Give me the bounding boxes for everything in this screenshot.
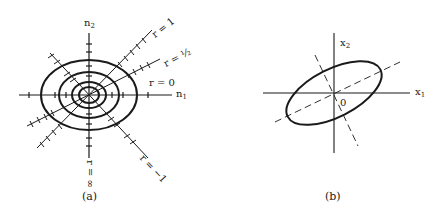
panel-a-caption: (a) <box>82 191 97 202</box>
panel-b-caption: (b) <box>325 191 341 202</box>
panel-a-contour-diagram: n2 n1 r = 1 r = ½ r = 0 r = −1 r = ∞ (a) <box>0 0 220 218</box>
r-zero-label: r = 0 <box>149 78 175 88</box>
r-infinity-label: r = ∞ <box>85 160 95 188</box>
panel-b-ellipse-diagram: x2 x1 0 (b) <box>220 0 439 218</box>
x2-axis-label: x2 <box>340 38 350 50</box>
principal-axes <box>275 55 400 146</box>
x-axes <box>263 33 410 153</box>
n2-axis-label: n2 <box>84 18 95 30</box>
panel-a-graphic <box>0 0 220 218</box>
n1-axis-label: n1 <box>176 89 187 101</box>
panel-b-graphic <box>220 0 439 218</box>
origin-label: 0 <box>340 98 346 108</box>
minor-axis-dashed <box>315 55 358 146</box>
x1-axis-label: x1 <box>415 87 425 99</box>
